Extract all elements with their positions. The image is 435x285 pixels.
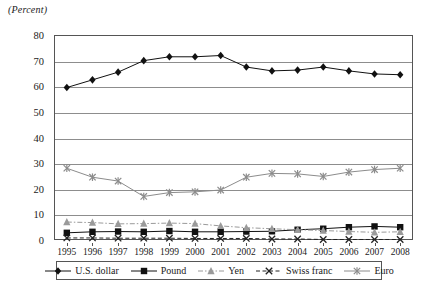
series-layer — [54, 35, 413, 240]
x-tick-1997: 1997 — [109, 247, 128, 257]
series-pound — [64, 223, 404, 236]
x-tickmark-2002 — [246, 243, 247, 246]
x-tickmark-2008 — [400, 243, 401, 246]
legend-label: U.S. dollar — [75, 266, 119, 276]
legend-label: Yen — [228, 266, 244, 276]
y-tick-20: 20 — [34, 183, 45, 194]
x-tickmark-1995 — [67, 243, 68, 246]
x-tick-1999: 1999 — [160, 247, 179, 257]
x-tickmark-2003 — [272, 243, 273, 246]
square-marker-icon — [130, 265, 158, 277]
x-tickmark-1996 — [92, 243, 93, 246]
y-tick-30: 30 — [34, 158, 45, 169]
series-swiss-franc — [64, 235, 404, 243]
triangle-marker-icon — [197, 265, 225, 277]
y-tick-80: 80 — [34, 30, 45, 41]
x-tick-2006: 2006 — [339, 247, 358, 257]
x-tick-2001: 2001 — [211, 247, 230, 257]
legend-label: Euro — [374, 266, 393, 276]
x-axis-tick-labels: 1995199619971998199920002001200220032004… — [0, 243, 435, 261]
x-tickmark-2007 — [375, 243, 376, 246]
x-tick-2008: 2008 — [391, 247, 410, 257]
x-tick-2003: 2003 — [262, 247, 281, 257]
diamond-marker-icon — [44, 265, 72, 277]
y-tick-70: 70 — [34, 55, 45, 66]
legend-entry-yen: Yen — [197, 265, 244, 277]
legend-label: Swiss franc — [286, 266, 332, 276]
x-tick-2002: 2002 — [237, 247, 256, 257]
y-tick-60: 60 — [34, 81, 45, 92]
legend-entry-swiss-franc: Swiss franc — [255, 265, 332, 277]
x-tick-2000: 2000 — [186, 247, 205, 257]
legend-entry-euro: Euro — [343, 265, 393, 277]
legend-entry-u-s-dollar: U.S. dollar — [44, 265, 119, 277]
asterisk-marker-icon — [343, 265, 371, 277]
currency-composition-line-chart: (Percent) 01020304050607080 199519961997… — [0, 0, 435, 285]
x-tick-1998: 1998 — [134, 247, 153, 257]
x-tickmark-2000 — [195, 243, 196, 246]
x-marker-icon — [255, 265, 283, 277]
x-tickmark-2004 — [298, 243, 299, 246]
y-tick-10: 10 — [34, 209, 45, 220]
legend-label: Pound — [161, 266, 187, 276]
x-tickmark-2005 — [323, 243, 324, 246]
x-tickmark-1998 — [144, 243, 145, 246]
legend: U.S. dollarPoundYenSwiss francEuro — [56, 261, 382, 280]
x-tick-2005: 2005 — [314, 247, 333, 257]
legend-entry-pound: Pound — [130, 265, 187, 277]
x-tick-1995: 1995 — [57, 247, 76, 257]
x-tick-1996: 1996 — [83, 247, 102, 257]
y-tick-50: 50 — [34, 106, 45, 117]
x-tickmark-1999 — [169, 243, 170, 246]
x-tickmark-1997 — [118, 243, 119, 246]
x-tick-2004: 2004 — [288, 247, 307, 257]
x-tickmark-2001 — [221, 243, 222, 246]
y-tick-40: 40 — [34, 132, 45, 143]
x-tick-2007: 2007 — [365, 247, 384, 257]
x-tickmark-2006 — [349, 243, 350, 246]
series-euro — [64, 164, 404, 200]
series-u-s-dollar — [64, 52, 404, 92]
